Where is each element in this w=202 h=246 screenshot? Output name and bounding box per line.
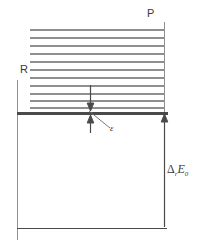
reaction-energy-e-symbol: E [177,162,184,176]
figure-canvas: R P ε ΔrE0 [0,0,202,246]
energy-level-diagram-svg [0,0,202,246]
reaction-energy-delta-symbol: Δ [167,162,175,176]
reactant-axis-label: R [20,64,28,75]
reaction-energy-subscript-zero: 0 [185,170,189,178]
product-axis-label: P [147,8,154,19]
reaction-energy-label: ΔrE0 [167,163,188,178]
energy-level-lines [30,30,164,108]
epsilon-down-arrow [87,85,94,111]
level-spacing-label: ε [110,124,114,133]
epsilon-up-arrow [87,115,94,133]
